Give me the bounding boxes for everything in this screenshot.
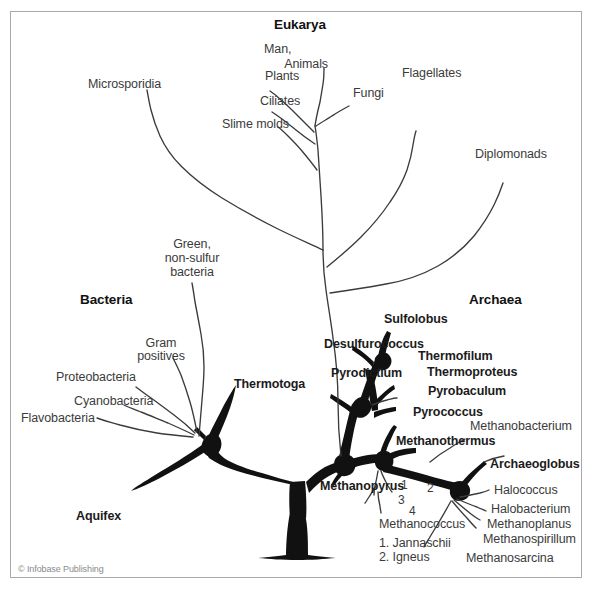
label-methanococcus: Methanococcus bbox=[379, 518, 465, 532]
gram-positives-branch bbox=[173, 358, 197, 432]
label-sulfolobus: Sulfolobus bbox=[384, 313, 448, 327]
domain-title-bacteria: Bacteria bbox=[80, 293, 132, 307]
label-plants: Plants bbox=[265, 70, 299, 84]
label-gram-positives-line2: positives bbox=[130, 350, 192, 364]
label-man-animals-line1: Man, bbox=[264, 43, 291, 57]
label-methanopyrus: Methanopyrus bbox=[320, 480, 404, 494]
methanococcus-legend-1: 1. Jannaschii bbox=[379, 537, 451, 551]
label-halobacterium: Halobacterium bbox=[491, 503, 570, 517]
eukarya-main-stem bbox=[323, 250, 341, 456]
methanococcus-legend-2: 2. Igneus bbox=[379, 551, 430, 565]
label-green-nonsulfur-line3: bacteria bbox=[150, 266, 234, 280]
label-methanobacterium: Methanobacterium bbox=[470, 420, 572, 434]
methanococcus-number-3: 3 bbox=[398, 494, 405, 508]
thermofilum-branch bbox=[376, 385, 395, 407]
label-pyrococcus: Pyrococcus bbox=[413, 406, 483, 420]
flagellates-branch bbox=[327, 131, 416, 267]
figure-canvas: Eukarya Bacteria Archaea Microsporidia M… bbox=[0, 0, 596, 595]
label-slime-molds: Slime molds bbox=[222, 118, 289, 132]
label-ciliates: Ciliates bbox=[260, 95, 300, 109]
publisher-credit: © Infobase Publishing bbox=[18, 563, 104, 577]
label-methanospirillum: Methanospirillum bbox=[483, 533, 576, 547]
label-pyrodictium: Pyrodictium bbox=[331, 367, 402, 381]
eukarya-crown-stem bbox=[315, 126, 323, 250]
label-green-nonsulfur-line1: Green, bbox=[150, 238, 234, 252]
label-flagellates: Flagellates bbox=[402, 67, 461, 81]
label-thermoproteus: Thermoproteus bbox=[427, 366, 517, 380]
man-animals-branch bbox=[315, 68, 324, 126]
domain-title-eukarya: Eukarya bbox=[274, 18, 334, 32]
label-desulfurococcus: Desulfurococcus bbox=[324, 338, 424, 352]
halobacterium-branch bbox=[457, 499, 486, 511]
fungi-branch bbox=[316, 106, 349, 126]
label-proteobacteria: Proteobacteria bbox=[56, 371, 136, 385]
label-cyanobacteria: Cyanobacteria bbox=[74, 395, 153, 409]
label-green-nonsulfur-line2: non-sulfur bbox=[150, 252, 234, 266]
main-trunk bbox=[289, 481, 306, 519]
trunk-to-bacteria-limb bbox=[206, 446, 297, 484]
methanococcus-branch-4 bbox=[378, 492, 381, 513]
label-thermofilum: Thermofilum bbox=[418, 350, 493, 364]
label-microsporidia: Microsporidia bbox=[88, 78, 161, 92]
aquifex-branch bbox=[131, 445, 205, 491]
methanothermus-branch bbox=[386, 448, 416, 462]
label-thermotoga: Thermotoga bbox=[234, 378, 305, 392]
label-methanothermus: Methanothermus bbox=[396, 435, 495, 449]
label-methanosarcina: Methanosarcina bbox=[466, 552, 554, 566]
cyanobacteria-branch bbox=[124, 405, 194, 435]
green-nonsulfur-branch bbox=[192, 283, 204, 436]
label-aquifex: Aquifex bbox=[76, 510, 121, 524]
thermotoga-branch bbox=[208, 385, 236, 442]
label-diplomonads: Diplomonads bbox=[475, 148, 547, 162]
label-archaeoglobus: Archaeoglobus bbox=[490, 458, 580, 472]
slime-molds-branch bbox=[278, 127, 317, 170]
methanococcus-number-1: 1 bbox=[401, 479, 408, 493]
label-fungi: Fungi bbox=[353, 87, 384, 101]
domain-title-archaea: Archaea bbox=[469, 293, 522, 307]
label-flavobacteria: Flavobacteria bbox=[21, 412, 95, 426]
pyrococcus-branch bbox=[380, 425, 397, 456]
diplomonads-branch bbox=[330, 183, 503, 293]
label-methanoplanus: Methanoplanus bbox=[487, 518, 571, 532]
archaeoglobus-branch bbox=[461, 461, 487, 489]
methanococcus-number-2: 2 bbox=[427, 482, 434, 496]
label-pyrobaculum: Pyrobaculum bbox=[428, 385, 506, 399]
pyrodictium-branch bbox=[330, 394, 353, 415]
label-halococcus: Halococcus bbox=[494, 484, 558, 498]
